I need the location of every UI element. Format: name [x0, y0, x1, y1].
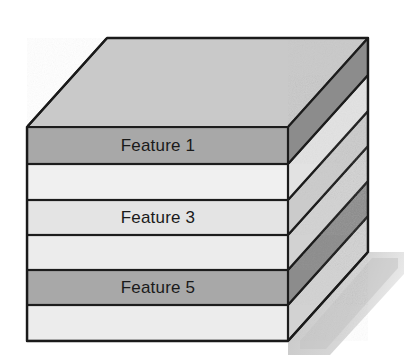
layer-2-front-face [27, 164, 288, 200]
layered-block-diagram: Feature 1 Feature 3 Feature 5 [0, 0, 411, 360]
layer-3-label: Feature 3 [121, 208, 196, 227]
layer-6-front-face [27, 305, 288, 341]
layer-4-front-face [27, 235, 288, 270]
layer-1-label: Feature 1 [121, 136, 196, 155]
layer-5-label: Feature 5 [121, 278, 196, 297]
layered-block-figure: Feature 1 Feature 3 Feature 5 [0, 0, 411, 360]
